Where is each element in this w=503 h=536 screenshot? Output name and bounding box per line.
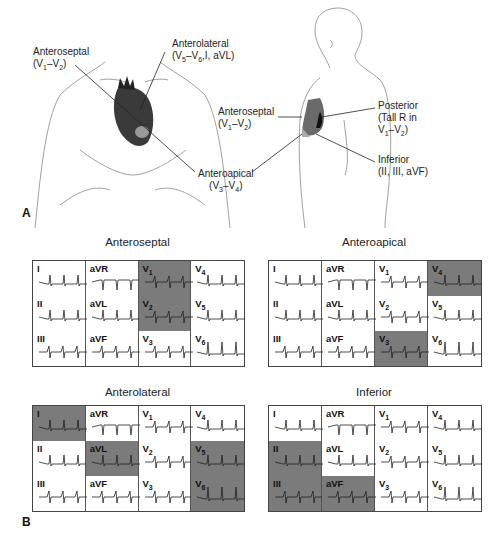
lead-cell-i: I	[269, 406, 322, 441]
heart-side-icon	[302, 98, 324, 137]
ecg-grid-anteroapical: IaVRV1V4IIaVLV2V5IIIaVFV3V6	[268, 260, 482, 367]
ecg-trace-icon	[434, 270, 482, 292]
ecg-trace-icon	[92, 485, 140, 507]
lead-cell-avr: aVR	[322, 406, 375, 441]
lead-cell-iii: III	[269, 331, 322, 366]
lead-cell-avr: aVR	[322, 261, 375, 296]
lead-cell-v1: V1	[375, 406, 428, 441]
ecg-trace-icon	[328, 305, 376, 327]
lead-cell-i: I	[33, 261, 86, 296]
lead-cell-iii: III	[33, 476, 86, 511]
grid-title-anteroapical: Anteroapical	[268, 236, 480, 248]
lead-cell-v4: V4	[191, 261, 244, 296]
lead-cell-avr: aVR	[86, 406, 139, 441]
lead-cell-v3: V3	[375, 331, 428, 366]
lead-cell-avf: aVF	[86, 331, 139, 366]
ecg-trace-icon	[434, 340, 482, 362]
lead-cell-i: I	[33, 406, 86, 441]
ecg-trace-icon	[145, 305, 193, 327]
ecg-trace-icon	[381, 270, 429, 292]
lead-cell-v5: V5	[191, 441, 244, 476]
lead-cell-v5: V5	[428, 296, 481, 331]
ecg-trace-icon	[328, 450, 376, 472]
ecg-trace-icon	[197, 450, 245, 472]
ecg-trace-icon	[39, 270, 87, 292]
ecg-grid-inferior: IaVRV1V4IIaVLV2V5IIIaVFV3V6	[268, 405, 482, 512]
grid-title-inferior: Inferior	[268, 386, 480, 398]
lead-cell-avl: aVL	[322, 296, 375, 331]
lead-cell-ii: II	[269, 441, 322, 476]
ecg-trace-icon	[197, 305, 245, 327]
lead-cell-v2: V2	[375, 296, 428, 331]
ecg-trace-icon	[328, 415, 376, 437]
panel-letter-b: B	[22, 515, 31, 529]
ecg-trace-icon	[145, 270, 193, 292]
lead-cell-v3: V3	[375, 476, 428, 511]
ecg-grid-anteroseptal: IaVRV1V4IIaVLV2V5IIIaVFV3V6	[32, 260, 245, 367]
lead-cell-avr: aVR	[86, 261, 139, 296]
ecg-trace-icon	[434, 415, 482, 437]
label-posterior-side: Posterior (Tall R in V1–V2)	[378, 100, 418, 140]
lead-cell-v6: V6	[428, 476, 481, 511]
lead-cell-v5: V5	[191, 296, 244, 331]
lead-cell-v5: V5	[428, 441, 481, 476]
ecg-trace-icon	[434, 450, 482, 472]
ecg-trace-icon	[328, 340, 376, 362]
lead-cell-avf: aVF	[86, 476, 139, 511]
grid-title-anteroseptal: Anteroseptal	[32, 236, 243, 248]
lead-cell-v6: V6	[191, 476, 244, 511]
ecg-trace-icon	[381, 485, 429, 507]
lead-cell-v4: V4	[428, 406, 481, 441]
lead-cell-iii: III	[269, 476, 322, 511]
label-anteroseptal-front: Anteroseptal (V1–V2)	[33, 46, 89, 74]
ecg-trace-icon	[39, 305, 87, 327]
heart-front-icon	[114, 76, 153, 146]
lead-cell-v3: V3	[139, 331, 192, 366]
ecg-trace-icon	[92, 340, 140, 362]
ecg-trace-icon	[39, 450, 87, 472]
lead-cell-v4: V4	[191, 406, 244, 441]
ecg-trace-icon	[275, 485, 323, 507]
ecg-trace-icon	[328, 485, 376, 507]
ecg-trace-icon	[39, 485, 87, 507]
ecg-trace-icon	[434, 305, 482, 327]
lead-cell-avl: aVL	[86, 296, 139, 331]
ecg-trace-icon	[197, 485, 245, 507]
lead-cell-v6: V6	[191, 331, 244, 366]
ecg-trace-icon	[39, 340, 87, 362]
lead-cell-avf: aVF	[322, 476, 375, 511]
ecg-trace-icon	[434, 485, 482, 507]
ecg-trace-icon	[381, 450, 429, 472]
ecg-trace-icon	[275, 270, 323, 292]
grid-title-anterolateral: Anterolateral	[32, 386, 243, 398]
ecg-trace-icon	[145, 450, 193, 472]
lead-cell-v2: V2	[139, 296, 192, 331]
ecg-trace-icon	[39, 415, 87, 437]
ecg-trace-icon	[197, 340, 245, 362]
lead-cell-v3: V3	[139, 476, 192, 511]
ecg-trace-icon	[275, 305, 323, 327]
ecg-trace-icon	[197, 270, 245, 292]
lead-cell-avf: aVF	[322, 331, 375, 366]
ecg-trace-icon	[275, 340, 323, 362]
ecg-trace-icon	[145, 340, 193, 362]
ecg-trace-icon	[92, 270, 140, 292]
lead-cell-v2: V2	[139, 441, 192, 476]
lead-cell-v6: V6	[428, 331, 481, 366]
lead-cell-v1: V1	[139, 261, 192, 296]
lead-cell-ii: II	[33, 441, 86, 476]
lead-cell-avl: aVL	[322, 441, 375, 476]
ecg-trace-icon	[92, 450, 140, 472]
ecg-trace-icon	[92, 305, 140, 327]
ecg-trace-icon	[145, 415, 193, 437]
ecg-grid-anterolateral: IaVRV1V4IIaVLV2V5IIIaVFV3V6	[32, 405, 245, 512]
ecg-trace-icon	[381, 305, 429, 327]
panel-letter-a: A	[22, 206, 31, 220]
label-anteroapical-front: Anteroapical (V3–V4)	[198, 168, 254, 196]
lead-cell-i: I	[269, 261, 322, 296]
lead-cell-v4: V4	[428, 261, 481, 296]
ecg-trace-icon	[92, 415, 140, 437]
lead-cell-v1: V1	[375, 261, 428, 296]
label-anteroseptal-side: Anteroseptal (V1–V2)	[218, 106, 274, 134]
ecg-trace-icon	[381, 340, 429, 362]
